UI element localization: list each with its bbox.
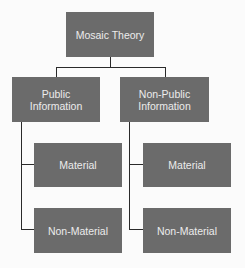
connector-root-down <box>110 57 111 67</box>
connector-non-public-to-material <box>129 164 143 165</box>
connector-non-public-to-non-material <box>129 229 143 230</box>
connector-root-horizontal <box>56 67 166 68</box>
node-public-information: Public Information <box>12 77 100 122</box>
connector-public-to-material <box>21 164 34 165</box>
mosaic-theory-diagram: Mosaic Theory Public Information Non-Pub… <box>0 0 245 268</box>
node-mosaic-theory: Mosaic Theory <box>66 12 154 57</box>
connector-public-to-non-material <box>21 229 34 230</box>
node-public-material: Material <box>34 143 122 187</box>
connector-non-public-spine <box>129 122 130 230</box>
node-public-non-material: Non-Material <box>34 208 122 253</box>
connector-to-public <box>56 67 57 77</box>
node-non-public-information: Non-Public Information <box>120 77 209 122</box>
connector-public-spine <box>21 122 22 230</box>
node-non-public-material: Material <box>143 143 231 187</box>
node-non-public-non-material: Non-Material <box>143 208 231 253</box>
connector-to-non-public <box>165 67 166 77</box>
